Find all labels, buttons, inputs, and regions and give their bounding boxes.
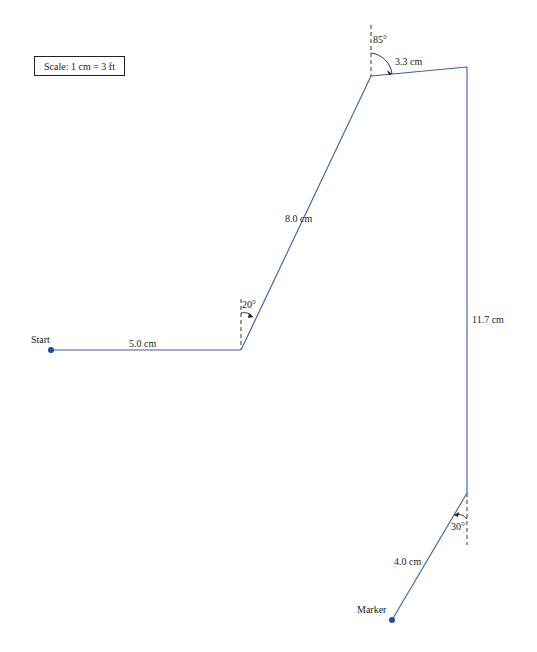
start-point <box>48 347 54 353</box>
segment-label-11-7: 11.7 cm <box>472 314 504 325</box>
start-label: Start <box>31 334 50 345</box>
displacement-diagram: Start 5.0 cm 8.0 cm 20° 85° 3.3 cm 11.7 … <box>0 0 537 652</box>
segment-label-5-0: 5.0 cm <box>129 338 156 349</box>
angle-label-85: 85° <box>373 34 387 45</box>
segment-3-3-cm <box>371 67 467 76</box>
marker-label: Marker <box>357 604 387 615</box>
segment-label-4-0: 4.0 cm <box>394 556 421 567</box>
angle-arc-85 <box>371 53 392 74</box>
marker-point <box>389 617 395 623</box>
angle-label-30: 30° <box>451 521 465 532</box>
segment-label-3-3: 3.3 cm <box>395 56 422 67</box>
angle-label-20: 20° <box>242 299 256 310</box>
segment-label-8-0: 8.0 cm <box>285 213 312 224</box>
